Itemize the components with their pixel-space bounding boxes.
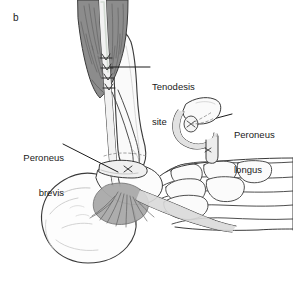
label-peroneus-brevis: Peroneus brevis [16,129,64,221]
label-peroneus-longus-line2: longus [234,164,275,176]
figure-panel: b Tenodesis site Peroneus longus Peroneu… [0,0,293,282]
label-peroneus-brevis-line1: Peroneus [16,152,64,164]
peroneal-retinaculum [99,160,147,178]
label-peroneus-longus-line1: Peroneus [234,129,275,141]
label-peroneus-longus: Peroneus longus [234,106,275,198]
label-peroneus-brevis-line2: brevis [16,187,64,199]
label-tenodesis-site-line2: site [152,116,195,128]
label-tenodesis-site-line1: Tenodesis [152,81,195,93]
panel-letter: b [13,12,19,23]
label-tenodesis-site: Tenodesis site [152,58,195,150]
